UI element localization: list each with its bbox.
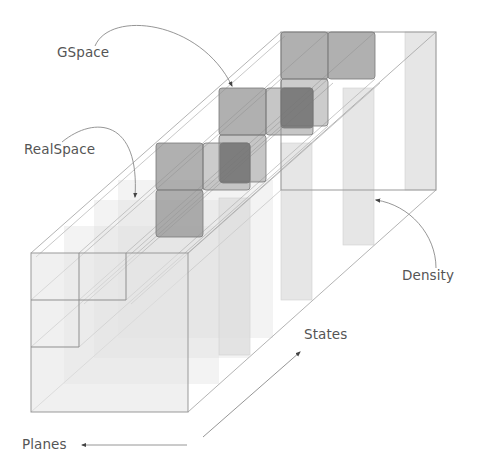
gspace-cube	[281, 32, 328, 79]
realspace-cube	[156, 143, 203, 190]
realspace-cube-inner	[220, 143, 250, 183]
realspace-cube	[156, 190, 203, 237]
label-states: States	[304, 326, 347, 342]
label-gspace: GSpace	[57, 44, 109, 60]
3d-data-decomposition-diagram	[0, 0, 480, 469]
label-planes: Planes	[22, 436, 67, 452]
label-realspace: RealSpace	[24, 141, 95, 157]
middle-cube-inner	[281, 88, 313, 128]
density-arrow	[376, 200, 436, 268]
gspace-cube	[328, 32, 375, 79]
front-face	[31, 253, 188, 412]
gspace-arrow	[95, 25, 232, 86]
middle-cube	[219, 88, 266, 135]
front-face-fill	[31, 253, 188, 412]
label-density: Density	[402, 267, 454, 283]
